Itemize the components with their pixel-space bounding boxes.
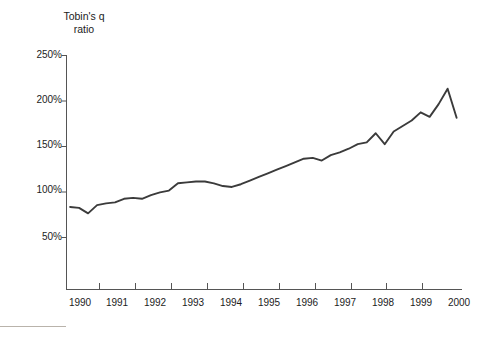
chart-container: Tobin's q ratio 250% 200% 150% 100% 50% …: [0, 0, 490, 341]
footer-rule: [0, 326, 66, 327]
x-axis-tick-labels: 1990 1991 1992 1993 1994 1995 1996 1997 …: [0, 0, 490, 341]
x-tick-label: 2000: [437, 298, 481, 308]
